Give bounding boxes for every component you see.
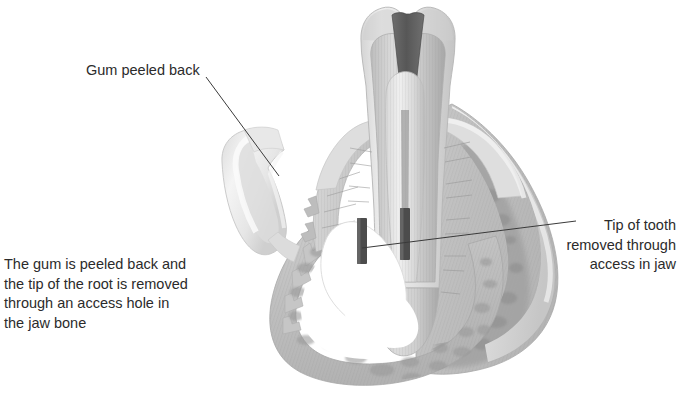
label-gum-peeled-back: Gum peeled back [86, 61, 200, 81]
label-tip-of-tooth-removed: Tip of tooth removed through access in j… [518, 216, 676, 275]
illustration-page: Gum peeled back Tip of tooth removed thr… [0, 0, 682, 401]
figure-caption: The gum is peeled back and the tip of th… [4, 255, 254, 333]
gum-flap-peeled-back [222, 127, 300, 262]
